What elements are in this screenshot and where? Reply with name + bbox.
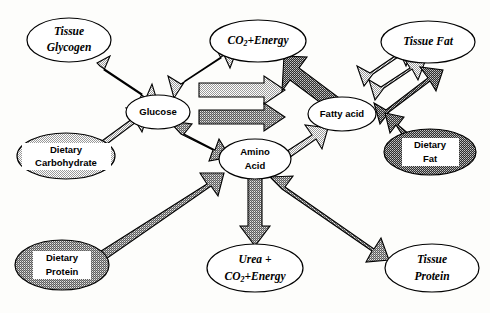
arrow-glucose-fatty-acid-lower	[199, 103, 285, 131]
node-dietary-fat[interactable]: Dietary Fat	[384, 129, 476, 175]
node-co2-energy-top[interactable]: CO2+Energy	[210, 20, 306, 62]
node-dietary-carbohydrate[interactable]: Dietary Carbohydrate	[17, 133, 115, 179]
node-tissue-fat[interactable]: Tissue Fat	[381, 21, 475, 63]
node-amino-acid-line2: Acid	[245, 160, 266, 171]
node-dietary-protein-line2: Protein	[46, 266, 79, 277]
arrow-amino-acid-urea	[240, 178, 270, 246]
node-tissue-protein-line1: Tissue	[417, 253, 447, 265]
node-dietary-fat-line2: Fat	[423, 153, 438, 164]
node-tissue-protein[interactable]: Tissue Protein	[385, 244, 479, 292]
arrow-dietary-protein-amino-acid	[98, 173, 224, 261]
metabolism-diagram: Tissue Glycogen CO2+Energy Tissue Fat Gl…	[0, 0, 490, 313]
diagram-canvas: Tissue Glycogen CO2+Energy Tissue Fat Gl…	[0, 0, 490, 313]
arrow-amino-acid-tissue-protein	[270, 176, 389, 262]
node-fatty-acid-label: Fatty acid	[320, 108, 365, 119]
node-tissue-protein-line2: Protein	[414, 270, 449, 282]
node-dietary-fat-line1: Dietary	[414, 139, 447, 150]
node-dietary-protein-line1: Dietary	[46, 252, 79, 263]
arrow-fatty-acid-tissue-fat-3	[374, 67, 443, 124]
node-urea-line1: Urea +	[238, 253, 272, 265]
node-tissue-fat-label: Tissue Fat	[403, 35, 454, 47]
node-amino-acid-line1: Amino	[240, 146, 270, 157]
node-dietary-carbohydrate-line2: Carbohydrate	[35, 157, 97, 168]
node-tissue-glycogen-line1: Tissue	[54, 25, 84, 37]
node-dietary-carbohydrate-line1: Dietary	[50, 144, 83, 155]
node-glucose[interactable]: Glucose	[126, 95, 190, 129]
node-dietary-protein[interactable]: Dietary Protein	[15, 240, 109, 290]
node-glucose-label: Glucose	[139, 106, 177, 117]
node-tissue-glycogen[interactable]: Tissue Glycogen	[27, 18, 111, 62]
node-amino-acid[interactable]: Amino Acid	[219, 139, 291, 179]
arrow-glucose-fatty-acid-upper	[199, 76, 285, 104]
node-fatty-acid[interactable]: Fatty acid	[308, 97, 376, 131]
node-urea-co2-energy[interactable]: Urea + CO2+Energy	[207, 244, 303, 292]
node-tissue-glycogen-line2: Glycogen	[47, 41, 92, 54]
